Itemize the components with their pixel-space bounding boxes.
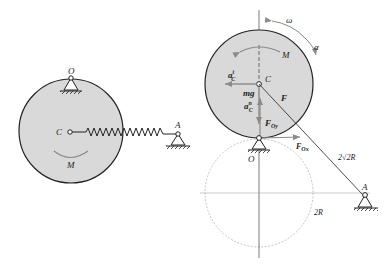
label-F-Ox: FOx <box>295 142 309 152</box>
left-label-A: A <box>174 120 181 130</box>
label-2R: 2R <box>314 208 323 217</box>
right-label-O: O <box>248 154 255 164</box>
label-omega: ω <box>286 15 292 25</box>
left-label-O: O <box>68 66 75 76</box>
left-figure: O C A M <box>19 66 190 183</box>
label-F: F <box>280 93 287 103</box>
left-label-C: C <box>56 127 63 137</box>
label-2root2R: 2√2R <box>338 153 355 162</box>
label-mg: mg <box>243 88 255 98</box>
label-alpha: α <box>314 42 319 52</box>
right-figure: ω α M C atC mg anC FOy F 2√2R O FOx <box>200 10 378 258</box>
right-anchor-support <box>354 193 378 211</box>
left-center-C <box>68 130 72 134</box>
right-label-A: A <box>361 182 368 192</box>
left-label-M: M <box>66 160 75 170</box>
right-label-C: C <box>265 74 272 84</box>
diagram-canvas: O C A M ω α M <box>0 0 392 268</box>
right-label-M: M <box>281 50 290 60</box>
